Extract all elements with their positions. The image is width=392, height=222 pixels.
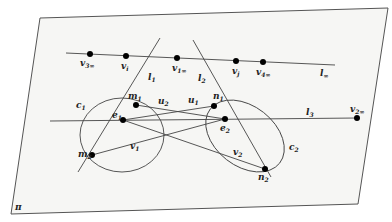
point-vj [233,58,239,64]
point-v2inf [354,115,360,121]
point-n1 [211,103,217,109]
point-v4inf [260,59,266,65]
plane-pi [11,8,388,214]
diagram-canvas: v3∞ vi v1∞ vj v4∞ l∞ v2∞ l1 l2 l3 m1 e1 … [0,0,392,222]
label-plane-pi: π [14,202,22,212]
point-v1inf [174,55,180,61]
point-m1 [133,102,139,108]
point-vi [123,53,129,59]
point-v3inf [87,51,93,57]
point-e2 [222,116,228,122]
